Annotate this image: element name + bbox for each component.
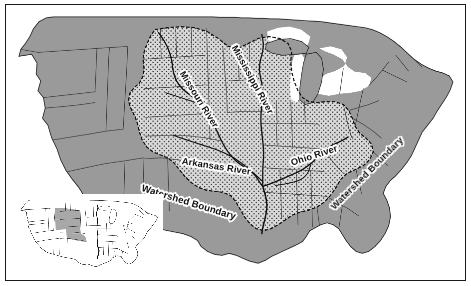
locator-inset-map	[15, 194, 163, 274]
watershed-map-figure: Missouri River Mississippi River Arkansa…	[0, 0, 471, 286]
map-frame: Missouri River Mississippi River Arkansa…	[5, 4, 466, 281]
locator-inset-canvas	[15, 194, 163, 274]
